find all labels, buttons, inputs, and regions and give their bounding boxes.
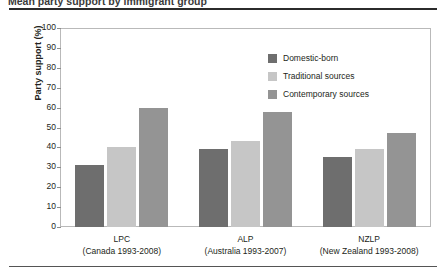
bar: [355, 149, 384, 227]
bar: [263, 112, 292, 227]
y-axis-tick-label: 0: [0, 221, 56, 231]
y-axis-tick-label: 90: [0, 42, 56, 52]
y-axis-tick-label: 60: [0, 102, 56, 112]
legend-item: Domestic-born: [268, 50, 369, 66]
legend-item: Contemporary sources: [268, 86, 369, 102]
x-axis-group-name: ALP: [184, 233, 308, 245]
legend-item: Traditional sources: [268, 68, 369, 84]
legend-label: Contemporary sources: [283, 89, 369, 99]
y-axis-tick-label: 100: [0, 22, 56, 32]
bar: [75, 165, 104, 227]
x-axis-group-sublabel: (Canada 1993-2008): [60, 245, 184, 257]
y-axis-tick-label: 70: [0, 82, 56, 92]
y-axis-tick-label: 30: [0, 161, 56, 171]
bars-layer: [60, 28, 431, 227]
legend-swatch-icon: [268, 72, 277, 81]
bar: [107, 147, 136, 227]
x-axis-group-label: LPC(Canada 1993-2008): [60, 233, 184, 257]
figure-title-clipped: Mean party support by immigrant group: [0, 0, 444, 7]
bar: [231, 141, 260, 227]
x-axis-group-label: NZLP(New Zealand 1993-2008): [307, 233, 431, 257]
y-axis-tick-label: 20: [0, 181, 56, 191]
y-axis-tick-mark: [57, 227, 61, 228]
chart-legend: Domestic-bornTraditional sourcesContempo…: [268, 50, 369, 104]
legend-label: Domestic-born: [283, 53, 338, 63]
figure-container: Mean party support by immigrant group Pa…: [0, 0, 444, 274]
bar: [139, 108, 168, 227]
legend-swatch-icon: [268, 90, 277, 99]
y-axis-tick-label: 40: [0, 141, 56, 151]
legend-label: Traditional sources: [283, 71, 355, 81]
bottom-divider-rule: [9, 266, 437, 267]
bar: [323, 157, 352, 227]
y-axis-tick-label: 50: [0, 122, 56, 132]
x-axis-group-name: NZLP: [307, 233, 431, 245]
x-axis-group-sublabel: (New Zealand 1993-2008): [307, 245, 431, 257]
x-axis-group-sublabel: (Australia 1993-2007): [184, 245, 308, 257]
y-axis-tick-label: 10: [0, 201, 56, 211]
x-axis-group-label: ALP(Australia 1993-2007): [184, 233, 308, 257]
top-divider-rule: [9, 8, 437, 10]
bar: [387, 133, 416, 227]
bar: [199, 149, 228, 227]
x-axis-group-name: LPC: [60, 233, 184, 245]
y-axis-tick-label: 80: [0, 62, 56, 72]
legend-swatch-icon: [268, 54, 277, 63]
